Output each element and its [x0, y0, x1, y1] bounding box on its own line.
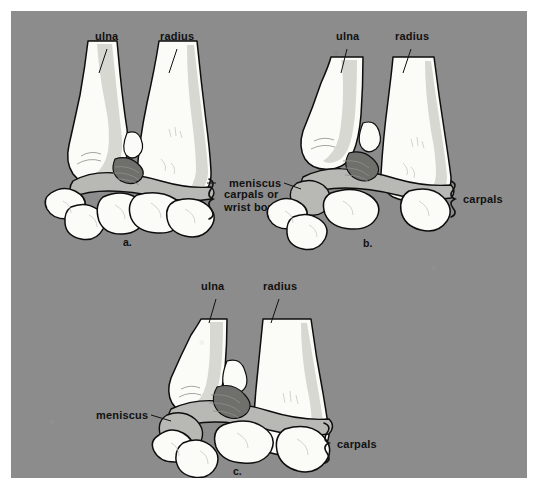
- panel-b-letter: b.: [363, 237, 372, 249]
- panel-a-interosseous-nodule: [124, 132, 143, 158]
- panel-b-interosseous-nodule: [359, 122, 380, 152]
- panel-a-carpals-label-line1: carpals or: [224, 188, 279, 200]
- panel-a-carpal-5: [167, 199, 215, 237]
- panel-c-meniscus-label: meniscus: [96, 409, 148, 421]
- figure-root: ulna radius carpals or wrist bones a.: [0, 0, 539, 493]
- panel-c-carpal-3: [215, 421, 274, 463]
- panel-c-ulna-label: ulna: [201, 280, 225, 292]
- panel-c-letter: c.: [233, 465, 242, 477]
- panel-a: ulna radius carpals or wrist bones a.: [45, 30, 287, 248]
- panel-a-letter: a.: [123, 236, 132, 248]
- panel-b-radius-label: radius: [395, 30, 429, 42]
- panel-c-radius-label: radius: [263, 280, 297, 292]
- panel-b-carpal-3: [323, 189, 378, 229]
- panel-a-radius-label: radius: [160, 30, 194, 42]
- panel-b-carpals-label: carpals: [463, 193, 503, 205]
- panel-b: ulna radius meniscus carpals b.: [229, 30, 503, 250]
- anatomy-illustration: ulna radius carpals or wrist bones a.: [11, 11, 527, 478]
- figure-background-panel: ulna radius carpals or wrist bones a.: [11, 11, 527, 478]
- panel-b-ulna-label: ulna: [336, 30, 360, 42]
- panel-a-ulna-label: ulna: [95, 30, 119, 42]
- panel-c: ulna radius meniscus carpals c.: [96, 280, 377, 478]
- panel-c-carpals-label: carpals: [337, 438, 377, 450]
- panel-b-meniscus-label: meniscus: [229, 177, 281, 189]
- panel-c-carpal-2: [176, 440, 218, 478]
